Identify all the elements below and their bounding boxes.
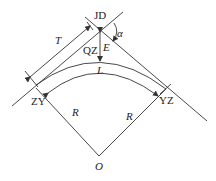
l-arc-dimension xyxy=(48,73,158,96)
label-t: T xyxy=(55,34,62,46)
label-qz: QZ xyxy=(83,44,98,56)
label-alpha: α xyxy=(117,27,123,39)
left-tangent-line xyxy=(12,12,123,106)
label-jd: JD xyxy=(94,9,106,21)
label-r-left: R xyxy=(71,106,79,118)
label-l: L xyxy=(96,64,103,76)
label-e: E xyxy=(102,41,110,53)
label-zy: ZY xyxy=(31,95,46,107)
radius-right xyxy=(99,89,166,156)
label-o: O xyxy=(95,160,103,172)
curve-diagram: JD α T E QZ L ZY YZ R R O xyxy=(0,0,216,181)
label-r-right: R xyxy=(125,110,133,122)
diagram-svg: JD α T E QZ L ZY YZ R R O xyxy=(0,0,216,181)
right-tangent-line xyxy=(85,17,207,121)
label-yz: YZ xyxy=(159,94,174,106)
